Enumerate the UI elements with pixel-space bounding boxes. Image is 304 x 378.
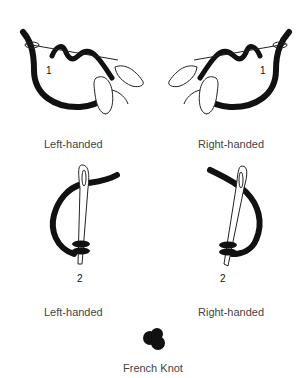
- caption: French Knot: [123, 362, 183, 374]
- step-number: 2: [77, 273, 83, 284]
- step2-right-illustration: [152, 160, 304, 270]
- right-handed-label: Right-handed: [198, 306, 264, 318]
- step-number: 1: [260, 65, 266, 76]
- step-number: 1: [46, 65, 52, 76]
- left-handed-label: Left-handed: [44, 138, 103, 150]
- step1-right-illustration: [152, 0, 304, 130]
- step1-left-illustration: [0, 0, 152, 130]
- french-knot-icon: [140, 326, 170, 356]
- right-handed-label: Right-handed: [198, 138, 264, 150]
- left-handed-label: Left-handed: [44, 306, 103, 318]
- step2-left-illustration: [0, 160, 152, 270]
- step-number: 2: [220, 273, 226, 284]
